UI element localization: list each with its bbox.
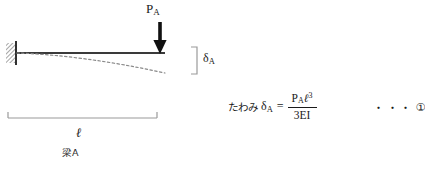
- equation-fraction: PAℓ3 3EI: [288, 92, 317, 121]
- load-subscript: A: [153, 7, 160, 17]
- load-label: PA: [146, 2, 160, 17]
- deflection-equation: たわみ δA = PAℓ3 3EI: [228, 92, 317, 121]
- numerator-exponent: 3: [309, 91, 313, 100]
- equation-reference-dots: ・・・: [373, 99, 414, 115]
- equation-denominator: 3EI: [290, 108, 315, 121]
- equation-reference-number: ①: [416, 101, 425, 114]
- equation-reference: ・・・ ①: [373, 99, 425, 115]
- equation-lhs-subscript: A: [267, 104, 273, 114]
- equation-equals-sign: =: [277, 99, 284, 114]
- fixed-support-hatch: [6, 43, 15, 63]
- deflection-bracket: [191, 47, 197, 74]
- equation-numerator: PAℓ3: [288, 92, 317, 107]
- load-arrow-head: [153, 40, 166, 54]
- deflection-label: δA: [203, 52, 215, 65]
- beam-caption: 梁A: [62, 148, 79, 158]
- equation-lhs-text: たわみ: [228, 99, 258, 114]
- equation-lhs-symbol: δA: [261, 99, 273, 114]
- deflection-subscript: A: [209, 56, 215, 66]
- deflected-shape-curve: [17, 53, 165, 73]
- span-length-label: ℓ: [76, 126, 81, 139]
